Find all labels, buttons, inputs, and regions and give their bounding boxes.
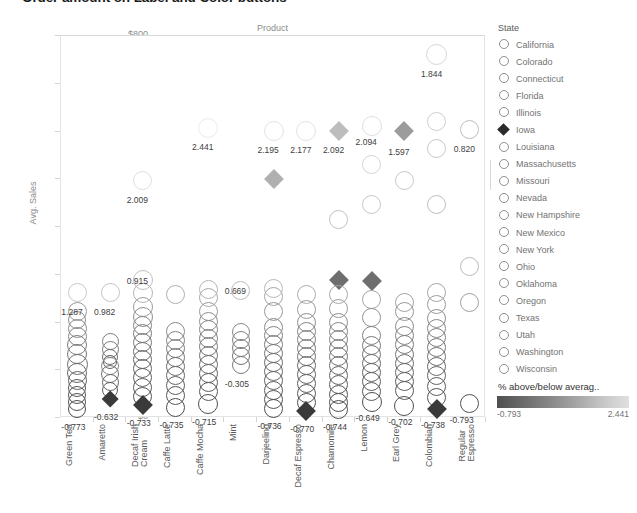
x-axis-label[interactable]: Lemon (360, 424, 369, 452)
mark-circle[interactable] (166, 285, 185, 304)
circle-icon (497, 191, 511, 205)
mark-circle[interactable] (264, 399, 283, 418)
mark-circle[interactable] (101, 283, 120, 302)
mark-circle[interactable] (329, 210, 348, 229)
legend-item-wisconsin[interactable]: Wisconsin (497, 361, 637, 378)
mark-circle[interactable] (166, 398, 185, 417)
x-axis-label[interactable]: Decaf Espresso (294, 424, 303, 488)
legend-item-missouri[interactable]: Missouri (497, 173, 637, 190)
legend-item-nevada[interactable]: Nevada (497, 190, 637, 207)
mark-circle[interactable] (362, 116, 382, 136)
mark-circle[interactable] (460, 293, 479, 312)
legend-item-texas[interactable]: Texas (497, 310, 637, 327)
circle-icon (497, 345, 511, 359)
color-ramp[interactable] (497, 396, 629, 408)
x-tick-mark (420, 417, 421, 422)
legend-item-label: Illinois (516, 108, 541, 118)
mark-circle[interactable] (362, 155, 381, 174)
x-axis-label[interactable]: Earl Grey (392, 424, 401, 462)
mark-circle[interactable] (362, 392, 382, 412)
legend-item-massachusetts[interactable]: Massachusetts (497, 156, 637, 173)
mark-circle[interactable] (460, 257, 479, 276)
mark-circle[interactable] (426, 44, 447, 65)
mark-value-label: -0.632 (94, 412, 118, 422)
legend-item-colorado[interactable]: Colorado (497, 53, 637, 70)
mark-circle[interactable] (133, 171, 152, 190)
mark-diamond[interactable] (362, 271, 382, 291)
y-axis-title: Avg. Sales (28, 158, 38, 248)
x-axis-label[interactable]: Darjeeling (262, 424, 271, 465)
mark-value-label: 0.820 (454, 144, 475, 154)
mark-circle[interactable] (395, 171, 414, 190)
legend-item-label: Massachusetts (516, 159, 576, 169)
mark-value-label: 1.287 (61, 307, 82, 317)
color-ramp-min: -0.793 (497, 409, 521, 419)
x-axis-label[interactable]: Regular Espresso (458, 424, 477, 462)
circle-icon (497, 72, 511, 86)
mark-circle[interactable] (460, 394, 479, 413)
legend-item-iowa[interactable]: Iowa (497, 121, 637, 138)
x-axis-label[interactable]: Amaretto (98, 424, 107, 461)
x-axis-label[interactable]: Chamomile (327, 424, 336, 470)
circle-icon (497, 38, 511, 52)
mark-circle[interactable] (232, 356, 250, 374)
legend-item-label: New Hampshire (516, 210, 580, 220)
legend-item-label: Florida (516, 91, 544, 101)
circle-icon (497, 311, 511, 325)
mark-diamond[interactable] (329, 121, 349, 141)
mark-circle[interactable] (198, 118, 218, 138)
mark-value-label: 2.441 (192, 142, 213, 152)
legend-item-new-york[interactable]: New York (497, 241, 637, 258)
mark-circle[interactable] (362, 290, 381, 309)
legend-item-label: Nevada (516, 193, 547, 203)
legend-item-new-mexico[interactable]: New Mexico (497, 224, 637, 241)
x-axis-label[interactable]: Decaf Irish Cream (131, 424, 150, 467)
circle-icon (497, 260, 511, 274)
legend-item-connecticut[interactable]: Connecticut (497, 70, 637, 87)
mark-circle[interactable] (427, 112, 446, 131)
legend-state: State CaliforniaColoradoConnecticutFlori… (497, 23, 637, 378)
legend-item-oregon[interactable]: Oregon (497, 292, 637, 309)
circle-icon (497, 140, 511, 154)
x-axis-label[interactable]: Mint (229, 424, 238, 441)
mark-value-label: 0.669 (225, 286, 246, 296)
x-axis-label[interactable]: Green Tea (65, 424, 74, 466)
mark-circle[interactable] (460, 120, 479, 139)
legend-item-california[interactable]: California (497, 36, 637, 53)
legend-item-washington[interactable]: Washington (497, 344, 637, 361)
mark-diamond[interactable] (394, 121, 414, 141)
mark-circle[interactable] (427, 195, 446, 214)
mark-circle[interactable] (68, 283, 87, 302)
legend-item-florida[interactable]: Florida (497, 87, 637, 104)
x-tick-mark (191, 417, 192, 422)
circle-icon (497, 277, 511, 291)
mark-circle[interactable] (362, 308, 381, 327)
mark-circle[interactable] (427, 139, 446, 158)
legend-item-label: Iowa (516, 125, 535, 135)
circle-icon (497, 243, 511, 257)
plot-area[interactable]: 1.287-0.7730.982-0.6320.915-0.7332.009-0… (60, 35, 485, 417)
legend-item-oklahoma[interactable]: Oklahoma (497, 275, 637, 292)
mark-value-label: 0.915 (127, 276, 148, 286)
mark-circle[interactable] (68, 400, 86, 418)
x-axis-label[interactable]: Caffe Latte (163, 424, 172, 468)
mark-diamond[interactable] (264, 169, 284, 189)
mark-circle[interactable] (264, 121, 284, 141)
x-axis-label[interactable]: Caffe Mocha (196, 424, 205, 475)
legend-item-utah[interactable]: Utah (497, 327, 637, 344)
mark-circle[interactable] (198, 394, 218, 414)
mark-value-label: -0.305 (225, 379, 249, 389)
mark-circle[interactable] (296, 121, 316, 141)
legend-item-label: Washington (516, 347, 563, 357)
legend-item-louisiana[interactable]: Louisiana (497, 139, 637, 156)
legend-item-new-hampshire[interactable]: New Hampshire (497, 207, 637, 224)
x-tick-mark (93, 417, 94, 422)
legend-item-ohio[interactable]: Ohio (497, 258, 637, 275)
color-ramp-max: 2.441 (608, 409, 629, 419)
x-axis-label[interactable]: Colombian (425, 424, 434, 467)
legend-item-illinois[interactable]: Illinois (497, 104, 637, 121)
mark-circle[interactable] (394, 396, 414, 416)
mark-circle[interactable] (362, 195, 381, 214)
mark-circle[interactable] (329, 400, 348, 419)
x-tick-mark (322, 417, 323, 422)
